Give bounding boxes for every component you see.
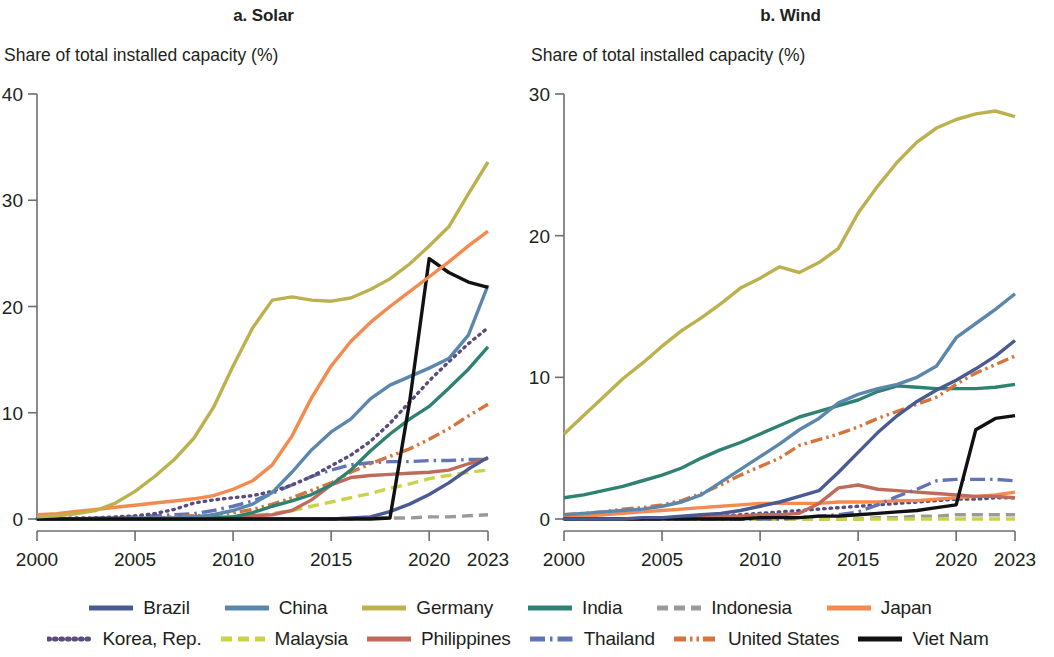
plot-area-wind: 0102030200020052010201520202023 xyxy=(527,0,1054,590)
svg-text:2000: 2000 xyxy=(543,549,585,570)
svg-text:2015: 2015 xyxy=(310,549,352,570)
legend-swatch-germany xyxy=(361,600,407,616)
legend-item-united-states[interactable]: United States xyxy=(673,628,839,650)
svg-text:2015: 2015 xyxy=(837,549,879,570)
legend-item-india[interactable]: India xyxy=(527,597,622,619)
legend-swatch-japan xyxy=(826,600,872,616)
legend-label: China xyxy=(279,597,328,619)
legend-swatch-china xyxy=(224,600,270,616)
legend-item-brazil[interactable]: Brazil xyxy=(88,597,189,619)
svg-text:2010: 2010 xyxy=(739,549,781,570)
svg-text:0: 0 xyxy=(539,509,550,530)
legend-swatch-philippines xyxy=(366,631,412,647)
legend-item-malaysia[interactable]: Malaysia xyxy=(220,628,348,650)
legend-label: India xyxy=(582,597,622,619)
series-line-viet-nam xyxy=(37,259,488,519)
legend-label: Philippines xyxy=(421,628,511,650)
svg-text:2005: 2005 xyxy=(641,549,683,570)
legend-swatch-malaysia xyxy=(220,631,266,647)
legend-swatch-viet-nam xyxy=(857,631,903,647)
series-line-korea-rep xyxy=(37,328,488,519)
legend-label: Indonesia xyxy=(711,597,792,619)
legend-item-korea-rep[interactable]: Korea, Rep. xyxy=(47,628,201,650)
legend-label: United States xyxy=(728,628,839,650)
svg-text:2023: 2023 xyxy=(994,549,1036,570)
svg-text:20: 20 xyxy=(2,297,23,318)
figure-root: a. Solar Share of total installed capaci… xyxy=(0,0,1054,657)
legend-row-1: BrazilChinaGermanyIndiaIndonesiaJapan xyxy=(0,592,1054,623)
legend-swatch-thailand xyxy=(529,631,575,647)
legend-label: Germany xyxy=(416,597,493,619)
legend-item-thailand[interactable]: Thailand xyxy=(529,628,655,650)
svg-text:2020: 2020 xyxy=(408,549,450,570)
series-line-brazil xyxy=(564,341,1015,520)
svg-text:2000: 2000 xyxy=(16,549,58,570)
legend-item-japan[interactable]: Japan xyxy=(826,597,932,619)
legend-swatch-india xyxy=(527,600,573,616)
svg-text:2023: 2023 xyxy=(467,549,509,570)
legend-item-philippines[interactable]: Philippines xyxy=(366,628,511,650)
legend-swatch-indonesia xyxy=(656,600,702,616)
svg-text:2005: 2005 xyxy=(114,549,156,570)
series-line-germany xyxy=(37,162,488,517)
svg-text:0: 0 xyxy=(12,509,23,530)
svg-text:10: 10 xyxy=(2,403,23,424)
svg-text:2020: 2020 xyxy=(935,549,977,570)
legend-label: Viet Nam xyxy=(912,628,988,650)
legend-item-china[interactable]: China xyxy=(224,597,328,619)
legend-label: Brazil xyxy=(143,597,189,619)
legend-label: Malaysia xyxy=(275,628,348,650)
svg-text:2010: 2010 xyxy=(212,549,254,570)
panel-solar: a. Solar Share of total installed capaci… xyxy=(0,0,527,590)
legend-swatch-united-states xyxy=(673,631,719,647)
svg-text:40: 40 xyxy=(2,84,23,105)
svg-text:10: 10 xyxy=(529,367,550,388)
legend-row-2: Korea, Rep.MalaysiaPhilippinesThailandUn… xyxy=(0,623,1054,654)
legend-swatch-korea-rep xyxy=(47,631,93,647)
legend-swatch-brazil xyxy=(88,600,134,616)
legend-item-germany[interactable]: Germany xyxy=(361,597,493,619)
svg-text:30: 30 xyxy=(529,84,550,105)
legend-item-viet-nam[interactable]: Viet Nam xyxy=(857,628,988,650)
panel-wind: b. Wind Share of total installed capacit… xyxy=(527,0,1054,590)
legend-label: Japan xyxy=(881,597,932,619)
chart-legend: BrazilChinaGermanyIndiaIndonesiaJapan Ko… xyxy=(0,592,1054,657)
legend-item-indonesia[interactable]: Indonesia xyxy=(656,597,792,619)
legend-label: Korea, Rep. xyxy=(102,628,201,650)
plot-area-solar: 010203040200020052010201520202023 xyxy=(0,0,527,590)
svg-text:30: 30 xyxy=(2,190,23,211)
legend-label: Thailand xyxy=(584,628,655,650)
svg-text:20: 20 xyxy=(529,226,550,247)
